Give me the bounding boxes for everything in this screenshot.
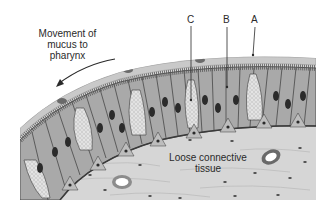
blood-vessel-left — [112, 175, 132, 189]
label-a: A — [251, 15, 258, 25]
label-c: C — [187, 15, 194, 25]
label-line: tissue — [158, 163, 258, 174]
epithelium-diagram: Movement of mucus to pharynx Loose conne… — [0, 0, 330, 216]
connective-tissue-label: Loose connective tissue — [158, 152, 258, 174]
label-line: mucus to — [20, 39, 115, 50]
label-line: Movement of — [20, 28, 115, 39]
label-line: Loose connective — [158, 152, 258, 163]
label-line: pharynx — [20, 50, 115, 61]
mucus-movement-label: Movement of mucus to pharynx — [20, 28, 115, 61]
label-b: B — [223, 15, 230, 25]
